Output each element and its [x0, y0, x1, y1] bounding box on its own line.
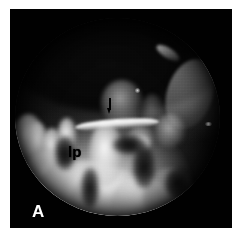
specular-speck [205, 122, 212, 126]
specular-speck [135, 88, 140, 93]
cavity-shadow [133, 146, 155, 188]
figure-panel: lp A [0, 0, 241, 235]
photo-frame: lp A [10, 9, 232, 228]
cavity-shadow [165, 168, 191, 198]
endoscope-aperture [15, 18, 220, 216]
cavity-shadow [81, 168, 99, 208]
panel-letter: A [32, 203, 45, 220]
arrow-head [107, 108, 111, 114]
tissue-label-lp: lp [68, 144, 81, 159]
down-arrow-marker [108, 98, 111, 114]
